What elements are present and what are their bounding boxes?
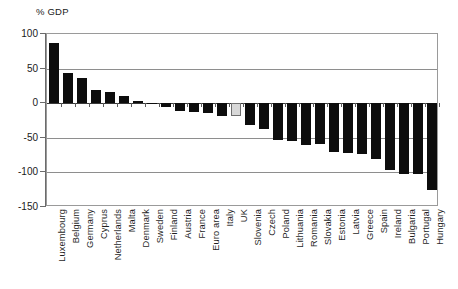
x-tick (103, 103, 104, 107)
x-tick (201, 103, 202, 107)
x-tick (89, 103, 90, 107)
y-axis-labels: 100500-50-100-150 (0, 0, 38, 289)
bar-estonia (329, 103, 338, 152)
bar-spain (371, 103, 380, 158)
x-tick (299, 103, 300, 107)
x-tick (383, 103, 384, 107)
x-tick (131, 103, 132, 107)
x-tick (271, 103, 272, 107)
x-label-hungary: Hungary (435, 209, 445, 245)
bar-bulgaria (399, 103, 408, 174)
x-label-euro-area: Euro area (211, 209, 221, 251)
x-label-bulgaria: Bulgaria (407, 209, 417, 244)
x-label-netherlands: Netherlands (113, 209, 123, 260)
bar-italy (217, 103, 226, 116)
x-label-cyprus: Cyprus (99, 209, 109, 239)
bar-portugal (413, 103, 422, 174)
bar-luxembourg (49, 43, 58, 103)
x-label-denmark: Denmark (141, 209, 151, 247)
plot-area (46, 33, 438, 206)
x-label-sweden: Sweden (155, 209, 165, 243)
bar-finland (161, 103, 170, 107)
x-label-latvia: Latvia (351, 209, 361, 234)
x-tick (61, 103, 62, 107)
y-tick--100 (40, 171, 45, 172)
x-label-romania: Romania (309, 209, 319, 247)
x-label-czech: Czech (267, 209, 277, 236)
x-label-spain: Spain (379, 209, 389, 233)
x-label-estonia: Estonia (337, 209, 347, 241)
bar-greece (357, 103, 366, 154)
x-label-uk: UK (239, 209, 249, 222)
x-tick (411, 103, 412, 107)
y-tick-0 (40, 102, 45, 103)
x-tick (327, 103, 328, 107)
x-label-finland: Finland (169, 209, 179, 240)
bar-cyprus (91, 90, 100, 103)
bar-poland (273, 103, 282, 140)
x-tick (341, 103, 342, 107)
x-axis-category-labels: LuxembourgBelgiumGermanyCyprusNetherland… (46, 207, 438, 289)
bar-hungary (427, 103, 436, 190)
x-label-belgium: Belgium (71, 209, 81, 243)
bar-denmark (133, 101, 142, 103)
x-tick (425, 103, 426, 107)
x-tick (369, 103, 370, 107)
y-tick-label-0: 0 (0, 97, 38, 108)
x-tick (285, 103, 286, 107)
bar-germany (77, 78, 86, 104)
bar-romania (301, 103, 310, 145)
bar-slovenia (245, 103, 254, 125)
y-tick--50 (40, 137, 45, 138)
bar-netherlands (105, 92, 114, 103)
x-tick (229, 103, 230, 107)
y-tick-label-50: 50 (0, 62, 38, 73)
bar-series (47, 34, 437, 205)
y-tick-label-100: 100 (0, 28, 38, 39)
x-label-lithuania: Lithuania (295, 209, 305, 248)
bar-belgium (63, 73, 72, 103)
bar-austria (175, 103, 184, 111)
y-tick-label--50: -50 (0, 131, 38, 142)
bar-uk (231, 103, 240, 116)
x-tick (215, 103, 216, 107)
x-label-austria: Austria (183, 209, 193, 239)
x-label-ireland: Ireland (393, 209, 403, 238)
y-tick-label--150: -150 (0, 201, 38, 212)
y-tick-50 (40, 68, 45, 69)
x-tick (117, 103, 118, 107)
x-label-portugal: Portugal (421, 209, 431, 244)
x-tick (173, 103, 174, 107)
x-tick (243, 103, 244, 107)
x-label-slovenia: Slovenia (253, 209, 263, 245)
x-label-malta: Malta (127, 209, 137, 232)
x-tick (313, 103, 314, 107)
y-tick-label--100: -100 (0, 166, 38, 177)
y-tick--150 (40, 206, 45, 207)
bar-euro-area (203, 103, 212, 113)
bar-ireland (385, 103, 394, 169)
x-tick (257, 103, 258, 107)
x-label-greece: Greece (365, 209, 375, 240)
bar-latvia (343, 103, 352, 153)
x-tick (75, 103, 76, 107)
x-label-germany: Germany (85, 209, 95, 248)
x-label-france: France (197, 209, 207, 239)
bar-malta (119, 96, 128, 104)
x-tick (159, 103, 160, 107)
gdp-bar-chart: % GDP 100500-50-100-150 LuxembourgBelgiu… (0, 0, 458, 289)
x-label-slovakia: Slovakia (323, 209, 333, 245)
bar-czech (259, 103, 268, 129)
chart-axis-title: % GDP (36, 6, 69, 17)
x-label-italy: Italy (225, 209, 235, 227)
bar-sweden (147, 103, 156, 104)
x-tick (397, 103, 398, 107)
x-label-luxembourg: Luxembourg (57, 209, 67, 262)
bar-lithuania (287, 103, 296, 141)
bar-slovakia (315, 103, 324, 144)
x-label-poland: Poland (281, 209, 291, 239)
bar-france (189, 103, 198, 112)
x-tick (355, 103, 356, 107)
x-tick (439, 103, 440, 107)
x-tick (145, 103, 146, 107)
